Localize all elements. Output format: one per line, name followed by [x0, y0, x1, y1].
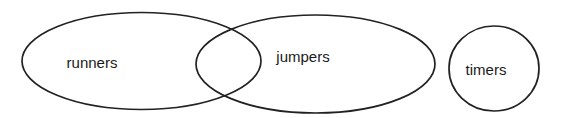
venn-diagram: runners jumpers timers: [0, 0, 561, 118]
jumpers-label: jumpers: [275, 48, 329, 65]
runners-label: runners: [67, 54, 118, 71]
timers-label: timers: [466, 61, 507, 78]
